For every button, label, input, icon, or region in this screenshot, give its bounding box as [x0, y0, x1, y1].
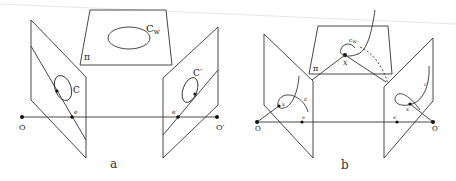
label-x-b: X: [343, 59, 348, 66]
label-oprime-b: O′: [432, 125, 440, 133]
label-xl-b: x: [282, 101, 285, 107]
label-pi-a: π: [84, 52, 90, 62]
ray-oprime-xprime-b: [410, 104, 433, 122]
left-epipole-a: [70, 115, 74, 119]
caption-a: a: [110, 157, 117, 171]
plane-pi-a: [80, 10, 172, 65]
panel-b: cw X π x c e O x′ c′ e′ O′ b: [255, 10, 440, 172]
label-oprime-a: O′: [216, 123, 225, 132]
right-center-a: [215, 115, 219, 119]
label-xr-b: x′: [406, 106, 411, 112]
right-epipolar-line-a: [163, 70, 218, 135]
panel-a: Cw π C e O C′ e′ O′ a: [19, 10, 225, 171]
label-pi-b: π: [313, 64, 318, 73]
right-conic-a: [179, 75, 201, 104]
right-image-plane-b: [384, 38, 433, 158]
label-e-b: e: [302, 114, 305, 120]
label-cprime-a: C′: [193, 68, 202, 78]
left-conic-a: [51, 73, 75, 103]
label-eprime-b: e′: [393, 114, 398, 120]
caption-b: b: [341, 158, 349, 172]
right-epipole-b: [395, 120, 398, 123]
left-center-a: [20, 115, 24, 119]
right-conic-point-a: [193, 92, 196, 95]
left-center-b: [255, 120, 259, 124]
ray-o-x-b: [257, 106, 279, 122]
label-eprime-a: e′: [172, 108, 178, 115]
right-image-plane-a: [163, 27, 218, 158]
right-center-b: [431, 120, 435, 124]
right-curve-b: [395, 66, 429, 110]
label-o-b: O: [255, 125, 261, 133]
scan-edge: [0, 4, 456, 24]
right-epipole-a: [176, 115, 180, 119]
left-epipole-b: [300, 120, 303, 123]
label-cw-b: cw: [349, 36, 357, 44]
label-e-a: e: [74, 108, 78, 115]
label-cl-b: c: [304, 95, 308, 102]
left-point-x-b: [277, 104, 280, 107]
label-o-a: O: [19, 123, 26, 132]
label-c-a: C: [73, 85, 80, 95]
plane-pi-b: [309, 26, 392, 74]
left-conic-point-a: [55, 89, 58, 92]
epipolar-geometry-figure: Cw π C e O C′ e′ O′ a cw X π: [0, 0, 456, 181]
